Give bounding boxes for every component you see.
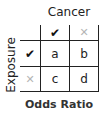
row-header-no: ✕: [20, 67, 40, 91]
column-header-no: ✕: [70, 25, 98, 40]
cell-b: b: [70, 41, 98, 66]
row-title: Exposure: [4, 37, 18, 93]
caption: Odds Ratio: [20, 98, 98, 111]
cell-c: c: [41, 67, 69, 91]
column-header-yes: ✔: [41, 25, 69, 40]
cell-a: a: [41, 41, 69, 66]
grid-hline-bottom: [20, 91, 99, 92]
check-icon: ✔: [50, 26, 60, 40]
cell-d: d: [70, 67, 98, 91]
cross-icon: ✕: [79, 26, 88, 39]
check-icon: ✔: [25, 47, 35, 61]
row-header-yes: ✔: [20, 41, 40, 66]
grid-vline-right: [98, 25, 99, 91]
column-title: Cancer: [40, 5, 98, 19]
cross-icon: ✕: [25, 73, 34, 86]
